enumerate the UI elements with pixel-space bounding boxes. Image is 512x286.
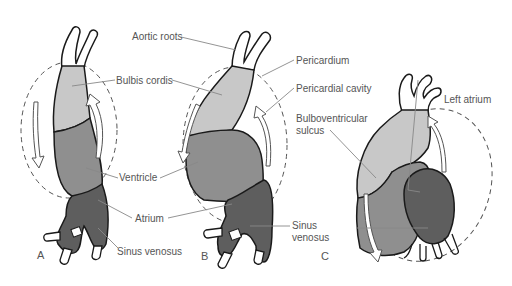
label-left-atrium: Left atrium xyxy=(444,94,491,105)
arrow-down-a xyxy=(32,102,44,168)
label-aortic-roots: Aortic roots xyxy=(132,31,183,42)
vein-a-left xyxy=(44,232,60,241)
leader-pericardial-cavity xyxy=(266,88,294,112)
panel-letter-c: C xyxy=(321,250,329,262)
aortic-roots-b xyxy=(232,32,270,71)
leader-atrium-b xyxy=(168,204,232,218)
vein-b-left xyxy=(204,228,222,238)
aortic-roots-a xyxy=(62,27,98,68)
bulbus-cordis-b xyxy=(188,66,254,136)
arrow-up-c xyxy=(428,116,446,172)
panel-c xyxy=(343,74,512,279)
leader-aortic-roots xyxy=(181,37,236,50)
panel-b xyxy=(178,32,287,269)
label-pericardium: Pericardium xyxy=(296,55,349,66)
label-atrium: Atrium xyxy=(135,213,164,224)
label-pericardial-cavity: Pericardial cavity xyxy=(296,83,372,94)
panel-a xyxy=(21,27,117,264)
label-bulboventricular-1: Bulboventricular xyxy=(296,113,368,124)
vein-a-bottom2 xyxy=(92,246,102,260)
heart-diagram xyxy=(0,0,512,286)
vein-a-bottom1 xyxy=(60,248,72,264)
label-sinus-venosus-b-2: venosus xyxy=(292,232,329,243)
aortic-roots-c xyxy=(399,74,441,112)
label-sinus-venosus-b-1: Sinus xyxy=(292,220,317,231)
panel-letter-a: A xyxy=(37,249,44,261)
panel-letter-b: B xyxy=(201,250,208,262)
vein-b-bottom2 xyxy=(254,250,264,264)
label-bulboventricular-2: sulcus xyxy=(296,125,324,136)
label-bulbis-cordis: Bulbis cordis xyxy=(116,75,173,86)
label-ventricle: Ventricle xyxy=(119,172,157,183)
leader-pericardium xyxy=(262,60,294,76)
label-sinus-venosus-a: Sinus venosus xyxy=(117,246,182,257)
atrium-a xyxy=(57,184,108,253)
